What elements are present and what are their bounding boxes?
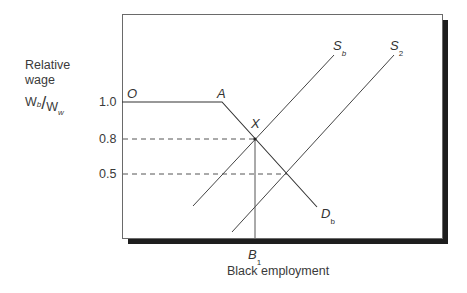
- curve-label-sb-sub: b: [342, 49, 346, 58]
- equilibrium-point-x: [253, 137, 256, 140]
- y-tick-1.0: 1.0: [99, 95, 116, 109]
- curve-label-db-sub: b: [330, 217, 334, 226]
- x-axis-label: Black employment: [227, 264, 329, 278]
- point-label-x: X: [251, 116, 260, 131]
- curve-label-sb-main: S: [333, 38, 342, 53]
- point-label-a: A: [217, 86, 226, 101]
- ratio-denominator: W: [46, 100, 58, 114]
- curve-label-s2-main: S: [390, 38, 399, 53]
- demand-curve-db: [122, 102, 317, 207]
- y-axis-label-line1: Relative: [25, 58, 70, 72]
- ratio-denominator-sub: w: [58, 108, 64, 117]
- y-axis-label-line2: wage: [25, 73, 55, 87]
- curve-label-s2: S2: [390, 38, 403, 56]
- point-label-o: O: [127, 86, 137, 101]
- x-tick-b1: B1: [248, 247, 261, 265]
- x-tick-b1-main: B: [248, 247, 257, 262]
- curve-label-s2-sub: 2: [399, 49, 403, 58]
- ratio-numerator: W: [25, 95, 37, 109]
- y-tick-0.8: 0.8: [99, 132, 116, 146]
- curve-label-db-main: D: [321, 206, 330, 221]
- supply-curve-sb: [193, 55, 334, 206]
- curve-label-db: Db: [321, 206, 335, 224]
- y-tick-0.5: 0.5: [99, 167, 116, 181]
- y-axis-ratio: Wb/Ww: [25, 93, 64, 115]
- supply-curve-s2: [232, 55, 394, 232]
- curve-label-sb: Sb: [333, 38, 346, 56]
